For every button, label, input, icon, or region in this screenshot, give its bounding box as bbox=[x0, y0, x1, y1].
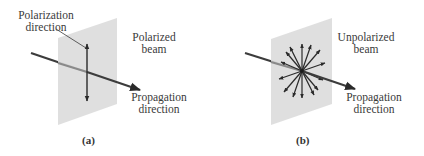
label-line: direction bbox=[342, 103, 406, 115]
label-line: beam bbox=[334, 43, 398, 55]
propagation-direction-label-b: Propagation direction bbox=[342, 91, 406, 115]
label-line: Polarization bbox=[14, 9, 78, 21]
label-line: Polarized bbox=[128, 31, 180, 43]
caption-a: (a) bbox=[82, 134, 95, 146]
panel-a bbox=[31, 18, 140, 125]
caption-b: (b) bbox=[296, 134, 309, 146]
unpolarized-beam-label: Unpolarized beam bbox=[334, 31, 398, 55]
label-line: beam bbox=[128, 43, 180, 55]
polarization-direction-label: Polarization direction bbox=[14, 9, 78, 33]
label-line: Propagation bbox=[127, 91, 191, 103]
label-line: Propagation bbox=[342, 91, 406, 103]
propagation-direction-label-a: Propagation direction bbox=[127, 91, 191, 115]
label-line: direction bbox=[127, 103, 191, 115]
label-line: Unpolarized bbox=[334, 31, 398, 43]
polarized-beam-label: Polarized beam bbox=[128, 31, 180, 55]
label-line: direction bbox=[14, 21, 78, 33]
